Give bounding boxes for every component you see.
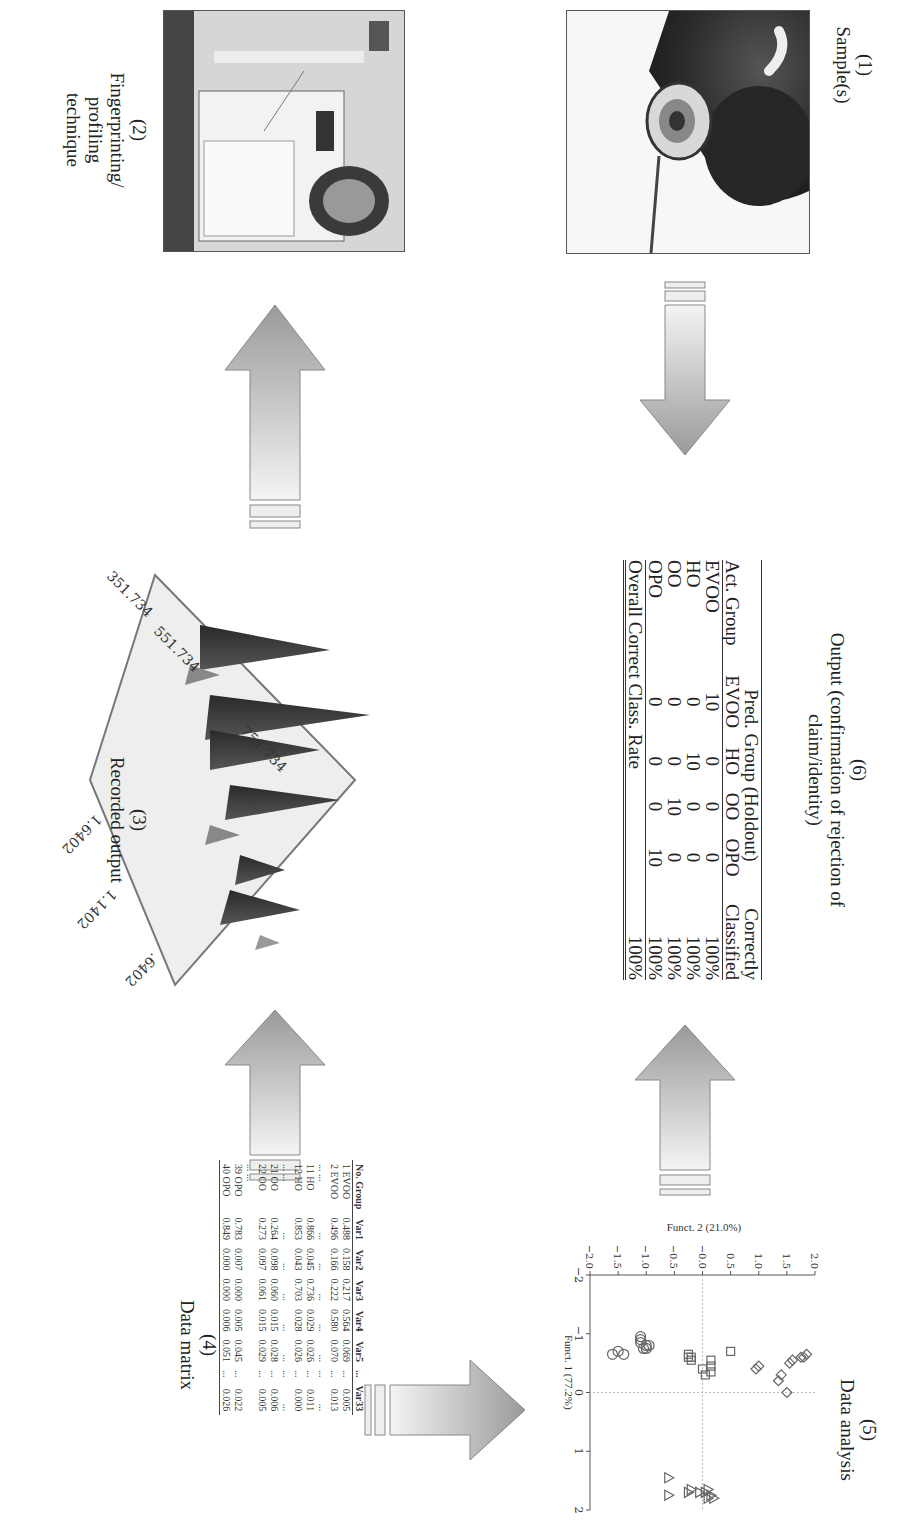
classification-cell: 0 [646,739,666,784]
data-matrix-cell: 0.013 [328,1381,340,1415]
classification-cell: 100% [703,886,723,980]
instrument-photo [163,10,405,252]
classification-cell: 100% [684,886,703,980]
data-matrix-cell: 0.028 [268,1335,280,1366]
classification-cell: OPO [646,560,666,665]
data-matrix-cell: 0.580 [328,1305,340,1336]
data-matrix-row: ... ........................ [280,1160,292,1415]
data-matrix-cell: 0.006 [220,1305,233,1336]
data-matrix-cell: 0.783 [232,1213,244,1244]
data-matrix-cell: 0.000 [292,1381,304,1415]
data-matrix-cell: 0.000 [220,1274,233,1305]
arrow-5-to-6 [630,1020,740,1220]
data-matrix-cell: 0.029 [256,1335,268,1366]
data-matrix-cell: 0.043 [292,1244,304,1275]
circle-marker [619,1349,629,1359]
y-tick-label: 0.5 [725,1253,736,1269]
classification-body: EVOO10000100%HO01000100%OO00100100%OPO00… [646,560,723,980]
data-matrix-cell: ... [280,1213,292,1244]
classification-cell: 0 [665,829,684,886]
data-matrix-cell: 40 OPO [220,1160,233,1213]
panel-6-caption: (6) Output (confirmation of rejection of… [804,560,870,980]
data-matrix-cell: 0.166 [328,1244,340,1275]
data-matrix-cell [244,1366,256,1382]
data-matrix-cell [244,1274,256,1305]
panel-1-caption: (1) Sample(s) [832,0,876,130]
data-matrix-cell: 22 OO [256,1160,268,1213]
data-matrix-cell: 0.045 [232,1335,244,1366]
classification-cell: 0 [684,665,703,739]
overall-label: Overall Correct Class. Rate [625,560,646,886]
overall-value: 100% [625,886,646,980]
data-matrix-cell: 0.736 [304,1274,316,1305]
y-tick-label: −2.0 [584,1245,595,1269]
classification-table: Pred. Group (Holdout) Correctly Act. Gro… [623,560,762,980]
triangle-marker [665,1473,674,1483]
data-matrix-cell: 0.217 [340,1274,353,1305]
data-matrix-cell: 0.849 [220,1213,233,1244]
data-matrix-cell: ... ... [316,1160,328,1213]
data-matrix-cell: ... [280,1381,292,1415]
data-matrix-cell: 11 HO [304,1160,316,1213]
data-matrix-row: 21 OO0.2640.0980.0600.0150.028...0.006 [268,1160,280,1415]
data-matrix-row: ... ... [244,1160,256,1415]
classification-row: EVOO10000100% [703,560,723,980]
y-tick-label: 2.0 [809,1253,820,1269]
data-matrix-cell: 0.222 [328,1274,340,1305]
pred-group-header: Pred. Group (Holdout) [742,665,762,887]
square-marker [684,1353,692,1361]
data-matrix-cell: 0.000 [220,1244,233,1275]
data-matrix-cell: ... [268,1366,280,1382]
classification-cell: 100% [665,886,684,980]
classification-cell: EVOO [703,560,723,665]
classification-cell: 0 [684,784,703,829]
data-matrix-cell: ... [280,1305,292,1336]
header-cell: Var2 [353,1244,366,1275]
panel-5-number: (5) [858,1340,880,1520]
data-matrix-cell: 0.273 [256,1213,268,1244]
panel-3-caption: (3) Recorded output [106,720,150,920]
panel-5-caption: (5) Data analysis [836,1340,880,1520]
classification-cell: 0 [703,784,723,829]
col-header-ho: HO [723,739,743,784]
data-matrix-cell: 0.051 [220,1335,233,1366]
data-matrix-cell: 0.264 [268,1213,280,1244]
panel-2-title-line-3: technique [62,0,84,260]
classification-cell: 0 [684,829,703,886]
data-matrix-row: 22 OO0.2730.0970.0610.0150.029...0.005 [256,1160,268,1415]
panel-3-number: (3) [128,720,150,920]
circle-marker [608,1349,618,1359]
data-matrix-cell: ... [280,1335,292,1366]
y-tick-label: −0.0 [697,1245,708,1269]
header-cell: Var4 [353,1305,366,1336]
workflow-diagram: (1) Sample(s) [0,0,910,1536]
sample-photo [566,10,810,254]
col-header-opo: OPO [723,829,743,886]
classification-cell: 0 [703,739,723,784]
col-header-evoo: EVOO [723,665,743,739]
panel-6-title-line-2: claim/identity) [804,560,826,980]
correct-header-line-1: Correctly [742,886,762,980]
panel-2-caption: (2) Fingerprinting/ profiling technique [62,0,150,260]
y-tick-label: −1.5 [612,1245,623,1269]
data-matrix-cell [244,1305,256,1336]
scatter-xlabel: Funct. 1 (77.2%) [563,1335,575,1410]
classification-cell: OO [665,560,684,665]
classification-cell: 0 [665,665,684,739]
data-matrix-cell: ... [316,1366,328,1382]
data-matrix-cell: ... [220,1366,233,1382]
data-matrix-cell: 0.061 [256,1274,268,1305]
arrow-right-1-to-2 [635,280,735,460]
panel-2-title-line-1: Fingerprinting/ [106,0,128,260]
square-marker [687,1356,695,1364]
square-marker [707,1356,715,1364]
panel-2-number: (2) [128,0,150,260]
data-matrix-cell: 0.026 [304,1335,316,1366]
scatter-ylabel: Funct. 2 (21.0%) [667,1221,742,1233]
data-matrix-cell: 0.000 [232,1274,244,1305]
data-matrix-cell: ... [304,1366,316,1382]
data-matrix-cell: 0.488 [340,1213,353,1244]
classification-cell: 100% [646,886,666,980]
triangle-marker [665,1490,674,1500]
classification-cell: 10 [684,739,703,784]
